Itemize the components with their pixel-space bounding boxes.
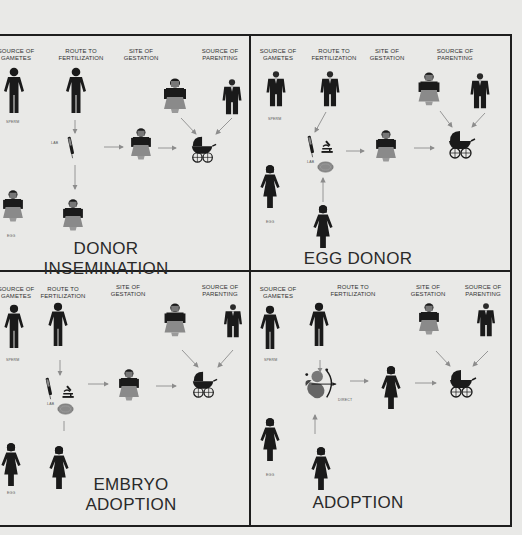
panel-title-line-1: ADOPTION: [258, 493, 458, 513]
panel-egg-donor: SOURCE OF GAMETES ROUTE TO FERTILIZATION…: [250, 17, 510, 270]
panel-title-line-1: DONOR: [6, 239, 206, 259]
panel-embryo-adoption: SOURCE OF GAMETES ROUTE TO FERTILIZATION…: [0, 271, 249, 525]
panel-title-line-1: EGG DONOR: [258, 249, 458, 269]
flow-arrows: [250, 17, 510, 270]
panel-title: EGG DONOR: [258, 249, 458, 269]
diagram-sheet: SOURCE OF GAMETES ROUTE TO FERTILIZATION…: [0, 17, 512, 527]
flow-arrows: [250, 271, 510, 525]
flow-arrows: [0, 17, 249, 270]
panel-title: ADOPTION: [258, 493, 458, 513]
panel-title: EMBRYO ADOPTION: [31, 475, 231, 515]
right-border: [510, 34, 512, 527]
panel-donor-insemination: SOURCE OF GAMETES ROUTE TO FERTILIZATION…: [0, 17, 249, 270]
panel-title-line-1: EMBRYO: [31, 475, 231, 495]
panel-adoption: SOURCE OF GAMETES ROUTE TO FERTILIZATION…: [250, 271, 510, 525]
bottom-border: [0, 525, 512, 527]
panel-title-line-2: ADOPTION: [31, 495, 231, 515]
